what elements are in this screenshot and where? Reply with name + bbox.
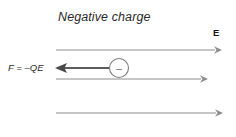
field-line-bottom <box>56 109 223 117</box>
diagram-title: Negative charge <box>58 10 151 24</box>
field-line-top <box>56 46 222 54</box>
field-vector-label: E <box>213 27 219 38</box>
electric-field-negative-charge-diagram: Negative charge E F = –QE – <box>0 0 236 137</box>
field-line-middle <box>56 75 208 83</box>
negative-charge: – <box>110 59 129 78</box>
force-arrow <box>55 63 110 73</box>
diagram-canvas: Negative charge E F = –QE – <box>0 0 236 137</box>
field-line-middle-arrowhead <box>200 75 208 83</box>
field-line-bottom-arrowhead <box>215 109 223 117</box>
force-label: F = –QE <box>8 62 44 73</box>
field-line-top-arrowhead <box>214 46 222 54</box>
charge-minus-sign: – <box>116 63 122 74</box>
